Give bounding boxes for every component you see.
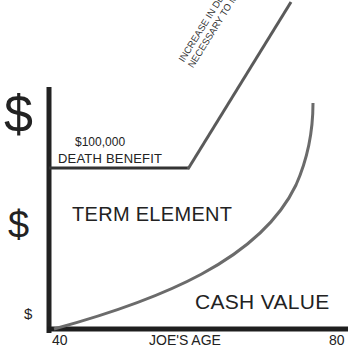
x-axis-max-label: 80: [329, 333, 345, 347]
cash-value-label: CASH VALUE: [195, 291, 330, 312]
death-benefit-amount: $100,000: [75, 136, 125, 148]
y-axis-marker-low: $: [24, 306, 32, 321]
y-axis-marker-high: $: [4, 88, 33, 140]
term-element-label: TERM ELEMENT: [72, 204, 232, 224]
x-axis-min-label: 40: [52, 333, 68, 347]
death-benefit-label: DEATH BENEFIT: [58, 152, 162, 165]
x-axis-title: JOE'S AGE: [149, 333, 221, 347]
y-axis-marker-mid: $: [8, 206, 29, 244]
